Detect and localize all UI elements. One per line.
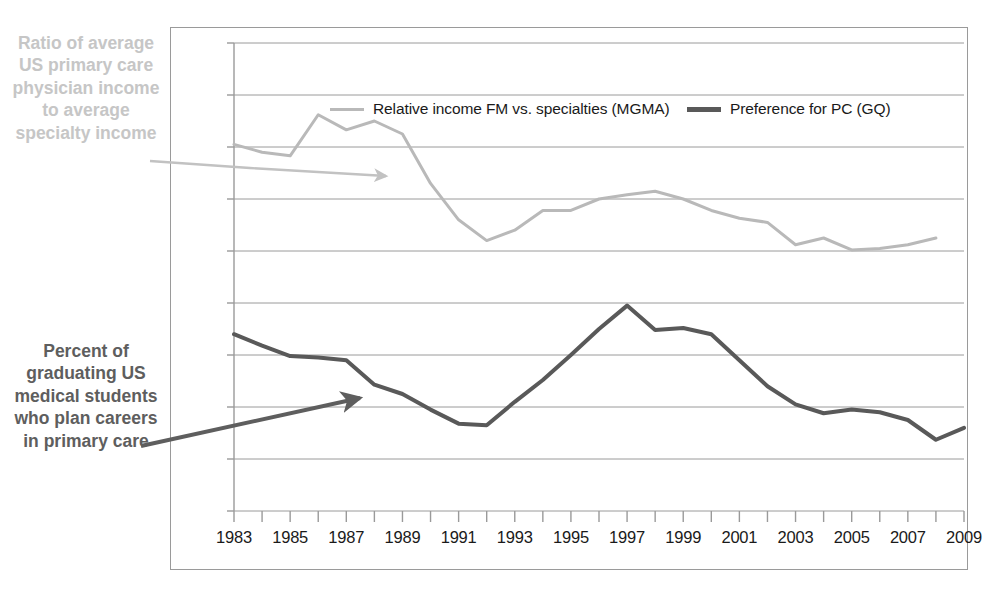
annotation-income-ratio: Ratio of average US primary care physici… bbox=[6, 32, 166, 144]
x-axis-tick-label: 2001 bbox=[721, 528, 757, 547]
chart-figure: Ratio of average US primary care physici… bbox=[0, 0, 995, 591]
x-axis-tick-label: 2007 bbox=[890, 528, 926, 547]
legend-swatch-relative-income bbox=[330, 108, 364, 111]
x-axis-tick-label: 1991 bbox=[441, 528, 477, 547]
x-axis-tick-label: 2005 bbox=[834, 528, 870, 547]
x-axis-tick-label: 2003 bbox=[778, 528, 814, 547]
chart-legend: Relative income FM vs. specialties (MGMA… bbox=[330, 100, 910, 124]
x-axis-tick-label: 2009 bbox=[946, 528, 982, 547]
legend-item-relative-income: Relative income FM vs. specialties (MGMA… bbox=[330, 100, 670, 118]
x-axis-tick-label: 1997 bbox=[609, 528, 645, 547]
x-axis-tick-label: 1983 bbox=[216, 528, 252, 547]
series-line-relative-income bbox=[234, 115, 936, 250]
x-axis-tick-label: 1985 bbox=[272, 528, 308, 547]
series-line-preference-pc bbox=[234, 306, 964, 440]
x-axis-tick-label: 1989 bbox=[385, 528, 421, 547]
annotation-primary-care-percent: Percent of graduating US medical student… bbox=[6, 340, 166, 452]
x-axis-tick-label: 1999 bbox=[665, 528, 701, 547]
x-axis-tick-label: 1987 bbox=[328, 528, 364, 547]
x-axis-tick-label: 1993 bbox=[497, 528, 533, 547]
legend-swatch-preference-pc bbox=[687, 107, 721, 112]
legend-label-preference-pc: Preference for PC (GQ) bbox=[730, 100, 891, 118]
legend-label-relative-income: Relative income FM vs. specialties (MGMA… bbox=[373, 100, 670, 118]
legend-item-preference-pc: Preference for PC (GQ) bbox=[687, 100, 891, 118]
x-axis-tick-label: 1995 bbox=[553, 528, 589, 547]
